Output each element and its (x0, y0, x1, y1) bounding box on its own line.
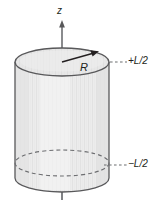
arrow-up-icon (59, 20, 65, 28)
z-axis-label: z (57, 6, 62, 16)
top-level-label: +L/2 (128, 56, 148, 66)
radius-label: R (80, 62, 88, 73)
bottom-level-label: −L/2 (128, 159, 148, 169)
diagram-canvas (0, 0, 165, 201)
cylinder-diagram-figure: z R +L/2 −L/2 (0, 0, 165, 201)
